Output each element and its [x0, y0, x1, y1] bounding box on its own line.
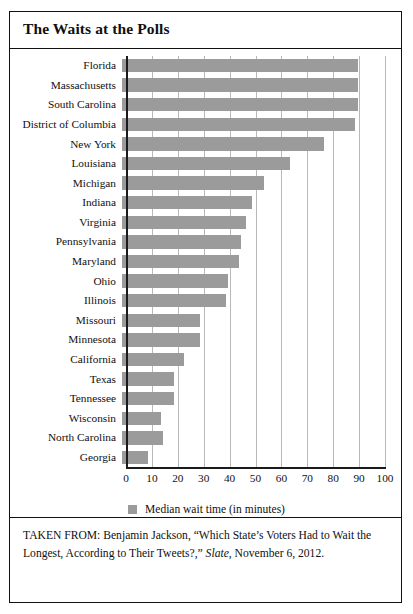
bar-cell [122, 193, 381, 213]
legend-label: Median wait time (in minutes) [145, 503, 285, 515]
bar-row: South Carolina [10, 95, 403, 115]
bar [122, 59, 358, 72]
bar-cell [122, 134, 381, 154]
bar-row: Missouri [10, 311, 403, 331]
bar-row: North Carolina [10, 428, 403, 448]
source-note: TAKEN FROM: Benjamin Jackson, “Which Sta… [23, 527, 391, 562]
bar-row: Illinois [10, 291, 403, 311]
x-tick-label: 20 [172, 472, 183, 484]
bar [122, 294, 226, 307]
bar-row: Minnesota [10, 330, 403, 350]
bar [122, 235, 241, 248]
source-publication: Slate [206, 547, 229, 560]
bar-cell [122, 409, 381, 429]
category-label: Virginia [10, 217, 122, 228]
category-label: Massachusetts [10, 80, 122, 91]
category-label: North Carolina [10, 432, 122, 443]
bar-cell [122, 272, 381, 292]
bar-row: Wisconsin [10, 409, 403, 429]
bar-row: Virginia [10, 213, 403, 233]
bar [122, 314, 200, 327]
bar-row: Michigan [10, 174, 403, 194]
source-divider [10, 517, 401, 518]
bar-cell [122, 213, 381, 233]
category-label: Indiana [10, 197, 122, 208]
bar-row: Louisiana [10, 154, 403, 174]
x-tick-label: 0 [123, 472, 129, 484]
chart-legend: Median wait time (in minutes) [10, 503, 403, 515]
category-label: Tennessee [10, 393, 122, 404]
bar [122, 274, 228, 287]
bar-cell [122, 370, 381, 390]
bar-row: Massachusetts [10, 76, 403, 96]
bar-cell [122, 76, 381, 96]
bar [122, 78, 358, 91]
x-tick-label: 30 [198, 472, 209, 484]
x-tick-label: 40 [224, 472, 235, 484]
category-label: District of Columbia [10, 119, 122, 130]
bar-row: Pennsylvania [10, 232, 403, 252]
category-label: Georgia [10, 452, 122, 463]
category-label: Missouri [10, 315, 122, 326]
bar [122, 372, 174, 385]
bar [122, 392, 174, 405]
bar-row: Maryland [10, 252, 403, 272]
bar-cell [122, 330, 381, 350]
category-label: California [10, 354, 122, 365]
category-label: New York [10, 139, 122, 150]
x-tick-label: 60 [276, 472, 287, 484]
x-tick-label: 80 [328, 472, 339, 484]
source-suffix: , November 6, 2012. [229, 547, 324, 560]
bar-cell [122, 311, 381, 331]
bar [122, 412, 161, 425]
category-label: Wisconsin [10, 413, 122, 424]
category-label: Texas [10, 374, 122, 385]
x-axis-line [126, 467, 386, 469]
bar-row: Georgia [10, 448, 403, 468]
bar [122, 255, 239, 268]
x-axis-tick-labels: 0102030405060708090100 [126, 472, 385, 490]
category-label: Michigan [10, 178, 122, 189]
x-tick-label: 100 [377, 472, 394, 484]
x-tick-label: 90 [353, 472, 364, 484]
bar-cell [122, 291, 381, 311]
bar-cell [122, 56, 381, 76]
bar [122, 353, 184, 366]
bar-cell [122, 428, 381, 448]
bar-cell [122, 389, 381, 409]
bar-cell [122, 252, 381, 272]
bar-rows: FloridaMassachusettsSouth CarolinaDistri… [10, 56, 403, 467]
bar [122, 176, 264, 189]
y-axis-line [126, 56, 128, 468]
bar [122, 216, 246, 229]
bar-cell [122, 95, 381, 115]
x-tick-label: 70 [302, 472, 313, 484]
category-label: Minnesota [10, 334, 122, 345]
category-label: Ohio [10, 276, 122, 287]
bar-row: Ohio [10, 272, 403, 292]
bar-cell [122, 154, 381, 174]
title-area: The Waits at the Polls [10, 12, 401, 48]
bar [122, 431, 163, 444]
category-label: South Carolina [10, 99, 122, 110]
bar-row: Tennessee [10, 389, 403, 409]
bar-cell [122, 448, 381, 468]
x-tick-label: 50 [250, 472, 261, 484]
bar-row: District of Columbia [10, 115, 403, 135]
bar-row: California [10, 350, 403, 370]
bar-row: Florida [10, 56, 403, 76]
bar-cell [122, 350, 381, 370]
plot-area: FloridaMassachusettsSouth CarolinaDistri… [10, 48, 403, 553]
bar [122, 98, 358, 111]
page-title: The Waits at the Polls [23, 20, 170, 38]
bar-cell [122, 115, 381, 135]
category-label: Louisiana [10, 158, 122, 169]
bar [122, 333, 200, 346]
category-label: Maryland [10, 256, 122, 267]
bar [122, 118, 355, 131]
legend-swatch-icon [128, 505, 137, 514]
chart-figure: The Waits at the Polls FloridaMassachuse… [9, 11, 402, 603]
bar-row: Texas [10, 370, 403, 390]
category-label: Illinois [10, 295, 122, 306]
bar-row: New York [10, 134, 403, 154]
